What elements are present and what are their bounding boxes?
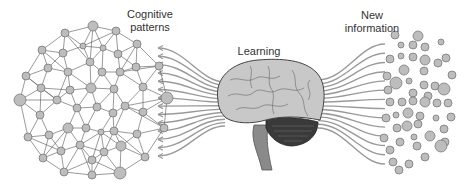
network-node bbox=[60, 168, 68, 176]
information-dot bbox=[425, 131, 435, 141]
information-dot bbox=[398, 42, 404, 48]
network-node bbox=[39, 154, 47, 162]
network-node bbox=[22, 72, 30, 80]
network-node bbox=[114, 50, 122, 58]
information-dot bbox=[442, 54, 450, 62]
information-dot bbox=[386, 98, 394, 106]
network-node bbox=[100, 148, 108, 156]
information-dot bbox=[420, 81, 428, 89]
information-dot bbox=[444, 99, 452, 107]
information-dot bbox=[395, 166, 403, 174]
network-node bbox=[73, 104, 81, 112]
information-dot bbox=[420, 67, 428, 75]
information-dot bbox=[421, 153, 429, 161]
network-node bbox=[139, 83, 147, 91]
network-node bbox=[155, 62, 163, 70]
information-dot bbox=[409, 41, 417, 49]
network-node bbox=[64, 68, 72, 76]
network-node bbox=[109, 109, 117, 117]
network-node bbox=[133, 40, 141, 48]
network-node bbox=[133, 130, 141, 138]
information-dot bbox=[393, 124, 401, 132]
network-node bbox=[14, 94, 26, 106]
network-node bbox=[88, 171, 96, 179]
information-dot bbox=[393, 112, 399, 118]
information-dot bbox=[420, 97, 430, 107]
information-dot bbox=[413, 31, 423, 41]
information-dot bbox=[413, 142, 421, 150]
network-node bbox=[121, 102, 129, 110]
information-dot bbox=[399, 65, 409, 75]
network-node bbox=[93, 103, 101, 111]
information-dot bbox=[402, 121, 412, 131]
network-node bbox=[24, 133, 32, 141]
network-node bbox=[161, 92, 173, 104]
cerebellum bbox=[266, 117, 318, 146]
information-dot bbox=[409, 89, 417, 97]
network-node bbox=[114, 167, 126, 179]
information-dot bbox=[434, 59, 442, 67]
cognitive-patterns-label: Cognitive patterns bbox=[110, 8, 190, 34]
network-node bbox=[110, 85, 118, 93]
information-dot bbox=[438, 83, 450, 95]
network-node bbox=[76, 141, 84, 149]
incoming-fibers-right bbox=[318, 44, 385, 164]
network-node bbox=[116, 141, 126, 151]
network-node bbox=[36, 111, 44, 119]
network-node bbox=[61, 29, 69, 37]
information-dot bbox=[448, 71, 456, 79]
network-node bbox=[160, 124, 168, 132]
information-dot bbox=[398, 98, 406, 106]
information-dot bbox=[438, 39, 444, 45]
network-node bbox=[63, 123, 73, 133]
information-dot bbox=[420, 55, 430, 65]
network-node bbox=[80, 43, 86, 49]
information-dot bbox=[421, 43, 429, 51]
information-dot bbox=[384, 86, 392, 94]
network-node bbox=[53, 96, 61, 104]
information-dot bbox=[409, 53, 417, 61]
network-node bbox=[45, 131, 53, 139]
information-dot bbox=[406, 78, 412, 84]
learning-diagram: Cognitive patterns Learning New informat… bbox=[0, 0, 470, 186]
information-dot bbox=[380, 134, 388, 142]
network-node bbox=[38, 46, 46, 54]
network-node bbox=[44, 64, 52, 72]
network-node bbox=[59, 49, 67, 57]
information-dot bbox=[398, 53, 404, 59]
network-node bbox=[57, 147, 65, 155]
information-dot bbox=[396, 138, 404, 146]
information-dot bbox=[403, 108, 413, 118]
information-dot bbox=[382, 114, 390, 122]
learning-label: Learning bbox=[229, 45, 289, 58]
information-dot bbox=[440, 125, 448, 133]
information-dot bbox=[435, 140, 447, 152]
information-dot bbox=[411, 134, 417, 140]
network-node bbox=[86, 58, 94, 66]
information-dot bbox=[386, 55, 394, 63]
information-dot bbox=[390, 77, 402, 89]
information-dot bbox=[433, 99, 441, 107]
information-dot bbox=[383, 72, 391, 80]
information-dot bbox=[416, 112, 424, 120]
information-dot bbox=[389, 158, 397, 166]
information-dot bbox=[414, 120, 422, 128]
network-node bbox=[98, 68, 106, 76]
network-node bbox=[141, 153, 149, 161]
network-node bbox=[86, 83, 96, 93]
network-node bbox=[88, 156, 96, 164]
network-node bbox=[82, 124, 90, 132]
network-node bbox=[66, 86, 74, 94]
network-node bbox=[37, 84, 45, 92]
brain-icon bbox=[217, 59, 324, 170]
information-dot bbox=[405, 160, 413, 168]
network-node bbox=[100, 45, 106, 51]
information-dot bbox=[409, 97, 417, 105]
network-node bbox=[110, 127, 118, 135]
new-information-label: New information bbox=[332, 9, 412, 35]
network-node bbox=[88, 21, 98, 31]
information-dot bbox=[386, 146, 394, 154]
information-dot bbox=[447, 113, 455, 121]
cerebrum bbox=[217, 59, 324, 122]
information-dots bbox=[380, 31, 456, 174]
